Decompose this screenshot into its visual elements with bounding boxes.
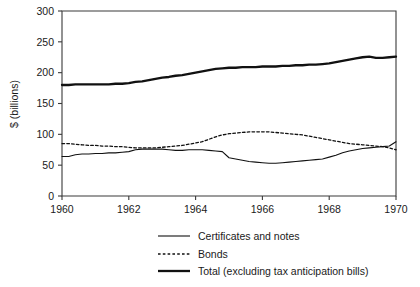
x-tick-label: 1964 <box>184 203 208 215</box>
y-tick-label: 100 <box>36 128 54 140</box>
x-tick-label: 1968 <box>318 203 342 215</box>
x-axis-ticks: 196019621964196619681970 <box>50 196 408 215</box>
series-line-2 <box>62 57 396 85</box>
y-tick-label: 50 <box>42 159 54 171</box>
y-tick-label: 0 <box>48 190 54 202</box>
y-tick-label: 200 <box>36 66 54 78</box>
x-tick-label: 1966 <box>251 203 275 215</box>
chart-legend: Certificates and notesBondsTotal (exclud… <box>158 230 368 277</box>
plot-border <box>62 11 396 196</box>
y-tick-label: 150 <box>36 97 54 109</box>
line-chart: 050100150200250300 196019621964196619681… <box>0 0 420 287</box>
series-line-1 <box>62 132 396 150</box>
y-axis-ticks: 050100150200250300 <box>36 5 62 202</box>
y-tick-label: 300 <box>36 5 54 17</box>
plot-frame <box>62 11 396 196</box>
legend-label-2: Total (excluding tax anticipation bills) <box>198 265 368 277</box>
x-tick-label: 1970 <box>384 203 408 215</box>
x-tick-label: 1962 <box>117 203 141 215</box>
chart-figure: 050100150200250300 196019621964196619681… <box>0 0 420 287</box>
y-axis-title: $ (billions) <box>8 80 20 128</box>
legend-label-0: Certificates and notes <box>198 230 300 242</box>
series-line-0 <box>62 142 396 164</box>
legend-label-1: Bonds <box>198 248 228 260</box>
y-tick-label: 250 <box>36 36 54 48</box>
x-tick-label: 1960 <box>50 203 74 215</box>
series-group <box>62 57 396 164</box>
